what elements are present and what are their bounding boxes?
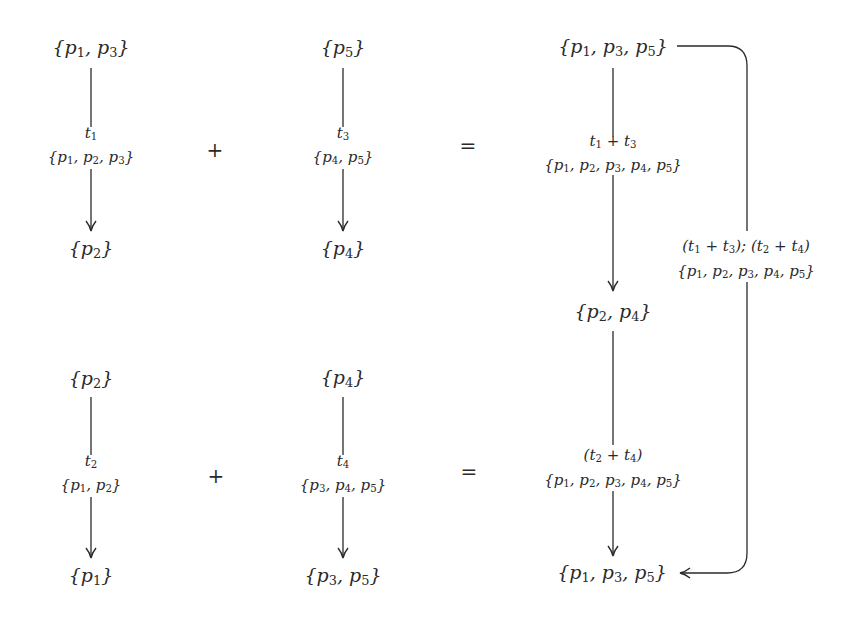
context-set-t1: {p1, p2, p3} xyxy=(48,150,134,167)
place-set-post-t1: {p2} xyxy=(69,239,114,261)
plus-operator-row1: + xyxy=(207,140,224,160)
result-middle-set: {p2, p4} xyxy=(574,302,651,324)
place-set-post-t4: {p3, p5} xyxy=(304,566,381,588)
transition-t1: t1 xyxy=(85,126,98,143)
diagram-wires xyxy=(0,0,867,622)
composite-context-set: {p1, p2, p3, p4, p5} xyxy=(677,264,815,281)
transition-t3: t3 xyxy=(337,126,350,143)
equals-operator-row2: = xyxy=(461,462,478,482)
result-transition-t1-plus-t3: t1 + t3 xyxy=(589,134,636,151)
equals-operator-row1: = xyxy=(460,136,477,156)
place-set-pre-t3: {p5} xyxy=(321,38,366,60)
result-end-set: {p1, p3, p5} xyxy=(557,563,667,585)
result-start-set: {p1, p3, p5} xyxy=(558,37,668,59)
result-context-step1: {p1, p2, p3, p4, p5} xyxy=(544,158,682,175)
transition-t2: t2 xyxy=(85,454,98,471)
context-set-t2: {p1, p2} xyxy=(61,478,122,495)
place-set-pre-t4: {p4} xyxy=(321,368,366,390)
composite-transition-label: (t1 + t3); (t2 + t4) xyxy=(682,239,810,256)
edge-composite-in xyxy=(677,46,747,231)
place-set-post-t3: {p4} xyxy=(321,239,366,261)
edge-composite-out xyxy=(681,282,747,573)
place-set-pre-t2: {p2} xyxy=(69,369,114,391)
context-set-t3: {p4, p5} xyxy=(313,150,374,167)
transition-t4: t4 xyxy=(337,454,350,471)
place-set-post-t2: {p1} xyxy=(69,566,114,588)
context-set-t4: {p3, p4, p5} xyxy=(300,478,386,495)
result-transition-t2-plus-t4: (t2 + t4) xyxy=(584,448,643,465)
place-set-pre-t1: {p1, p3} xyxy=(52,38,129,60)
result-context-step2: {p1, p2, p3, p4, p5} xyxy=(544,473,682,490)
plus-operator-row2: + xyxy=(208,466,225,486)
